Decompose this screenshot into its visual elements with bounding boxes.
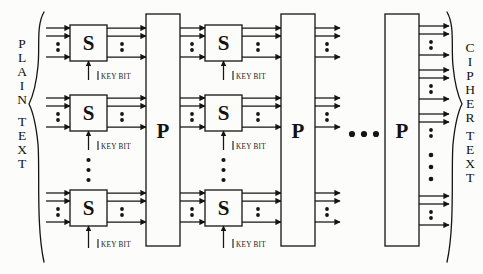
keybit-label-c1-r2: KEY BIT <box>101 143 131 151</box>
sbox-c1-r1[interactable]: S <box>70 25 107 61</box>
spn-diagram-svg: P L A I N T E X T C I P H E R T E X T <box>0 0 483 274</box>
plaintext-letter-4: N <box>17 92 27 107</box>
ciphertext-letter-6: T <box>466 128 475 143</box>
keybit-label-c2-r2: KEY BIT <box>236 143 266 151</box>
sbox-c1-r3[interactable]: S <box>70 190 107 226</box>
ciphertext-letter-2: P <box>466 68 474 83</box>
plaintext-letter-8: T <box>18 156 27 171</box>
plaintext-letter-3: I <box>20 78 25 93</box>
sbox-c1-r1-label: S <box>83 31 95 55</box>
ciphertext-letter-7: E <box>466 142 474 157</box>
sbox-column-2: S S S <box>205 25 242 226</box>
pbox-2[interactable]: P <box>281 14 315 246</box>
plaintext-letter-6: E <box>18 128 26 143</box>
sbox-c2-r2-label: S <box>218 101 230 125</box>
sbox-c1-r3-label: S <box>83 196 95 220</box>
sbox-column-1: S S S <box>70 25 107 226</box>
plaintext-letter-5: T <box>18 114 27 129</box>
sbox-c2-r1[interactable]: S <box>205 25 242 61</box>
plaintext-label-group: P L A I N T E X T <box>17 36 27 171</box>
ciphertext-letter-5: R <box>465 110 474 125</box>
plaintext-letter-2: A <box>17 64 27 79</box>
keybit-label-c1-r1: KEY BIT <box>101 73 131 81</box>
keybit-label-c2-r3: KEY BIT <box>236 241 266 249</box>
pbox-3-label: P <box>396 119 409 143</box>
pbox-2-label: P <box>292 119 305 143</box>
ciphertext-letter-0: C <box>465 40 474 55</box>
ciphertext-letter-8: X <box>465 156 475 171</box>
sbox-c2-r3[interactable]: S <box>205 190 242 226</box>
ciphertext-letter-4: E <box>466 96 474 111</box>
spn-diagram-canvas: P L A I N T E X T C I P H E R T E X T <box>0 0 483 274</box>
keybit-label-c2-r1: KEY BIT <box>236 73 266 81</box>
sbox-c1-r2-label: S <box>83 101 95 125</box>
sbox-c2-r2[interactable]: S <box>205 95 242 131</box>
keybit-label-c1-r3: KEY BIT <box>101 241 131 249</box>
round-ellipsis <box>349 131 379 137</box>
ciphertext-letter-9: T <box>466 170 475 185</box>
plaintext-letter-0: P <box>18 36 26 51</box>
pbox-1-label: P <box>157 119 170 143</box>
plaintext-letter-1: L <box>18 50 26 65</box>
sbox-c1-r2[interactable]: S <box>70 95 107 131</box>
ciphertext-letter-3: H <box>465 82 475 97</box>
plaintext-letter-7: X <box>17 142 27 157</box>
sbox-c2-r3-label: S <box>218 196 230 220</box>
pbox-1[interactable]: P <box>146 14 180 246</box>
sbox-c2-r1-label: S <box>218 31 230 55</box>
ciphertext-letter-1: I <box>468 54 473 69</box>
pbox-3[interactable]: P <box>385 14 419 246</box>
